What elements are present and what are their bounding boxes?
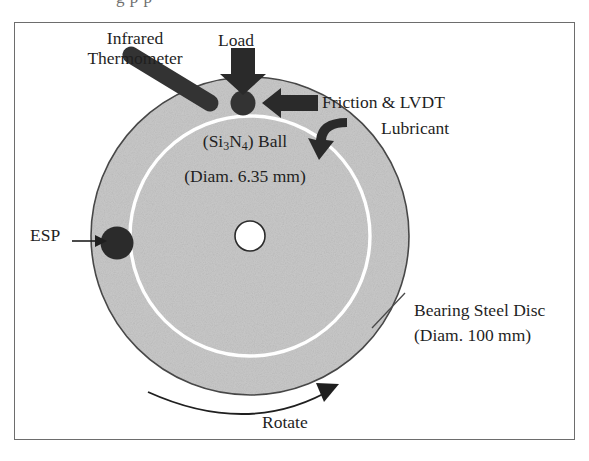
ball-formula-sub4: 4	[242, 139, 248, 153]
disc-center-hole	[235, 221, 265, 251]
ball-formula-si: Si	[209, 131, 224, 151]
label-silicon-nitride-ball: (Si3N4) Ball	[160, 131, 330, 156]
label-load: Load	[196, 30, 276, 50]
ball-label-word: Ball	[258, 131, 287, 151]
rotate-arrowhead	[316, 383, 339, 402]
ball-formula-n: N	[229, 131, 242, 151]
label-infrared-thermometer: Infrared Thermometer	[60, 28, 210, 68]
label-infrared-thermometer-line2: Thermometer	[60, 48, 210, 68]
esp-sensor	[101, 227, 134, 260]
label-lubricant: Lubricant	[381, 118, 449, 138]
label-rotate: Rotate	[262, 412, 308, 432]
label-bearing-steel-disc: Bearing Steel Disc	[414, 300, 545, 320]
label-ball-diameter: (Diam. 6.35 mm)	[150, 166, 340, 186]
label-esp: ESP	[30, 225, 60, 245]
label-infrared-thermometer-line1: Infrared	[60, 28, 210, 48]
label-disc-diameter: (Diam. 100 mm)	[414, 325, 531, 345]
label-friction-lvdt: Friction & LVDT	[322, 92, 445, 112]
apparatus-diagram	[0, 0, 589, 461]
